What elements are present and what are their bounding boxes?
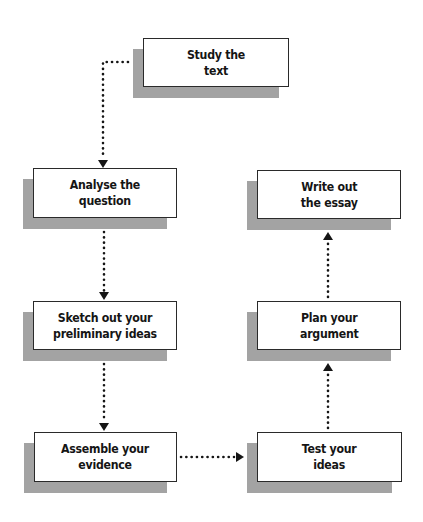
step-box: Assemble your evidence bbox=[34, 432, 177, 482]
arrowhead-down-icon bbox=[98, 160, 108, 168]
step-label: Sketch out your preliminary ideas bbox=[53, 310, 157, 342]
step-box: Sketch out your preliminary ideas bbox=[33, 301, 177, 350]
step-analyse-the-question: Analyse the question bbox=[33, 168, 177, 218]
step-box: Analyse the question bbox=[33, 168, 177, 218]
step-label: Analyse the question bbox=[70, 177, 140, 209]
step-label: Study the text bbox=[187, 47, 245, 79]
step-test-ideas: Test your ideas bbox=[257, 432, 402, 482]
arrowhead-down-icon bbox=[99, 423, 109, 431]
step-label: Write out the essay bbox=[301, 179, 358, 211]
step-write-essay: Write out the essay bbox=[257, 170, 401, 219]
step-label: Test your ideas bbox=[302, 441, 357, 473]
arrowhead-right-icon bbox=[236, 452, 244, 462]
step-study-the-text: Study the text bbox=[143, 38, 289, 87]
step-label: Assemble your evidence bbox=[61, 441, 149, 473]
connector-study-to-analyse bbox=[103, 62, 128, 158]
step-box: Test your ideas bbox=[257, 432, 402, 482]
step-plan-argument: Plan your argument bbox=[257, 301, 401, 350]
step-box: Write out the essay bbox=[257, 170, 401, 219]
step-label: Plan your argument bbox=[300, 310, 358, 342]
arrowhead-up-icon bbox=[323, 363, 333, 371]
step-sketch-preliminary-ideas: Sketch out your preliminary ideas bbox=[33, 301, 177, 350]
step-box: Study the text bbox=[143, 38, 289, 87]
arrowhead-down-icon bbox=[99, 292, 109, 300]
step-assemble-evidence: Assemble your evidence bbox=[34, 432, 177, 482]
arrowhead-up-icon bbox=[323, 232, 333, 240]
step-box: Plan your argument bbox=[257, 301, 401, 350]
